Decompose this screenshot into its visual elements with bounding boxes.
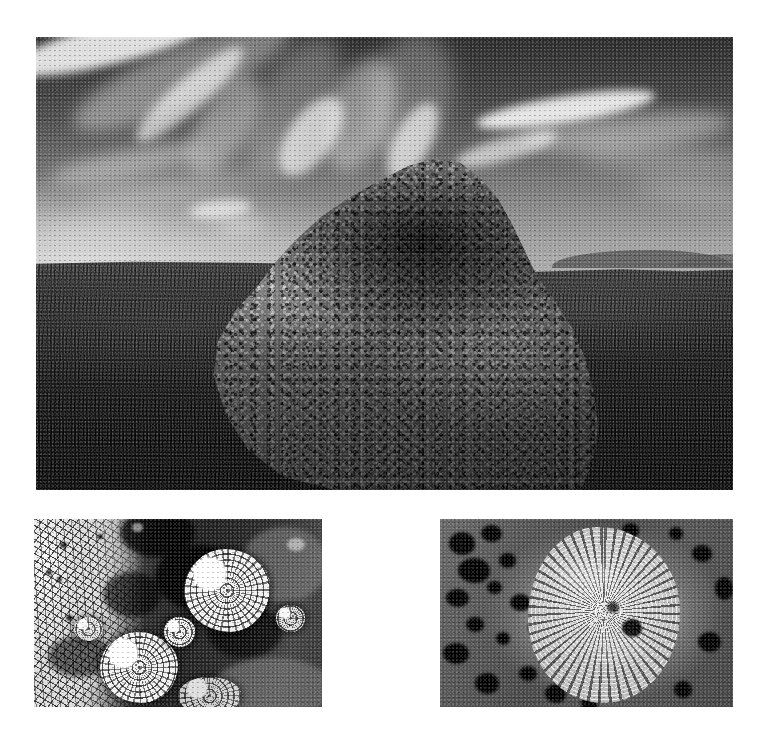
rock-pit-c-18 <box>715 577 733 600</box>
lichen-macro-left <box>34 519 322 707</box>
rock-pit-c-16 <box>669 527 684 540</box>
foliose-rosette-b-2 <box>100 632 178 703</box>
rock-pit-c-8 <box>466 617 484 632</box>
rock-pit-c-5 <box>446 589 469 608</box>
rock-pit-c-2 <box>481 525 502 542</box>
apothecium-b-4 <box>66 615 73 621</box>
rock-pit-c-10 <box>496 632 511 645</box>
rock-pit-c-6 <box>487 581 502 594</box>
rock-pit-c-17 <box>692 545 713 562</box>
dark-patch-b-3 <box>103 572 161 617</box>
foliose-rosette-b-6 <box>178 677 241 707</box>
rock-pit-c-3 <box>458 558 490 582</box>
foliose-rosette-b-4 <box>276 605 305 631</box>
rock-pit-c-1 <box>449 532 475 555</box>
rock-pit-c-4 <box>499 553 517 568</box>
foliose-rosette-b-3 <box>164 617 196 647</box>
light-speck-b-2 <box>287 538 304 551</box>
foliose-rosette-b-5 <box>74 617 103 641</box>
foliose-rosette-b-1 <box>184 549 270 632</box>
colony-cavity-2 <box>607 602 619 613</box>
figure-plate <box>0 0 766 733</box>
rock-pit-c-12 <box>519 666 537 681</box>
colony-central-cavity <box>622 619 643 638</box>
rock-pit-c-9 <box>443 643 469 664</box>
rock-pit-c-19 <box>698 632 721 653</box>
colony-highlight-2 <box>592 636 645 662</box>
lichen-macro-right <box>440 519 733 707</box>
landscape-boulder-photo <box>36 37 733 490</box>
rock-pit-c-11 <box>475 673 498 694</box>
rock-pit-c-20 <box>674 681 692 698</box>
